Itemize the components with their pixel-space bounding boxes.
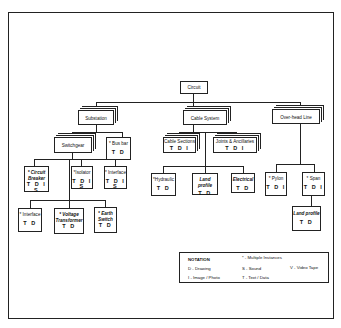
node-land-profile: Land profile T D	[192, 173, 218, 195]
connector	[96, 102, 301, 103]
node-substation: Substation	[78, 110, 114, 125]
node-voltage-transformer: * Voltage Transformer T D	[54, 208, 84, 234]
node-circuit-breaker: * Circuit Breaker T D I S	[24, 166, 49, 192]
legend-image-photo: I - Image / Photo	[188, 275, 220, 280]
node-interface-td: * Interface T D	[18, 208, 42, 232]
connector	[311, 196, 312, 206]
legend-multiple-instances: * - Multiple Instances	[242, 255, 282, 260]
node-overhead-line: Over-head Line	[272, 109, 320, 124]
connector	[193, 125, 194, 132]
connector	[105, 200, 106, 207]
connector	[300, 102, 301, 109]
connector	[34, 159, 115, 160]
connector	[300, 117, 301, 164]
node-joints-ancillaries: Joints & Ancillaries T D I	[213, 137, 257, 153]
connector	[30, 200, 31, 208]
node-isolator: *Isolator T D I S	[71, 166, 93, 189]
node-cable-sections: Cable Sections T D I	[163, 137, 196, 153]
connector	[314, 164, 315, 172]
legend-title: NOTATION	[188, 257, 210, 262]
node-span: * Span T D I	[302, 172, 325, 196]
connector	[81, 159, 82, 166]
node-circuit: Circuit	[180, 81, 208, 94]
connector	[276, 164, 277, 172]
node-hydraulic: *Hydraulic T D	[151, 173, 176, 196]
connector	[205, 166, 206, 173]
connector	[179, 132, 236, 133]
connector	[276, 164, 314, 165]
connector	[69, 159, 70, 200]
legend-sound: S - Sound	[242, 266, 261, 271]
legend-video-tape: V - Video Tape	[290, 265, 318, 270]
connector	[205, 132, 206, 166]
node-interface: * Interface T D I S	[104, 166, 127, 189]
connector	[243, 166, 244, 173]
node-pylon: * Pylon T D I	[265, 172, 287, 196]
connector	[193, 102, 194, 110]
legend-text-data: T - Text / Data	[242, 275, 269, 280]
legend-drawing: D - Drawing	[188, 266, 211, 271]
connector	[30, 200, 105, 201]
connector	[34, 159, 35, 166]
connector	[72, 132, 122, 133]
connector	[69, 200, 70, 208]
connector	[163, 166, 164, 173]
node-span-land-profile: Land profile T D	[292, 206, 321, 231]
node-bus-bar: * Bus bar T D	[106, 137, 131, 160]
node-earth-switch: * Earth Switch T D	[94, 207, 117, 233]
node-electrical: Electrical T D	[231, 173, 255, 193]
notation-legend: NOTATION * - Multiple Instances D - Draw…	[179, 252, 329, 283]
connector	[193, 94, 194, 102]
connector	[163, 166, 243, 167]
connector	[115, 159, 116, 166]
connector	[96, 102, 97, 109]
node-switchgear: Switchgear	[54, 137, 92, 153]
node-cable-system: Cable System	[183, 110, 227, 125]
connector	[96, 125, 97, 132]
